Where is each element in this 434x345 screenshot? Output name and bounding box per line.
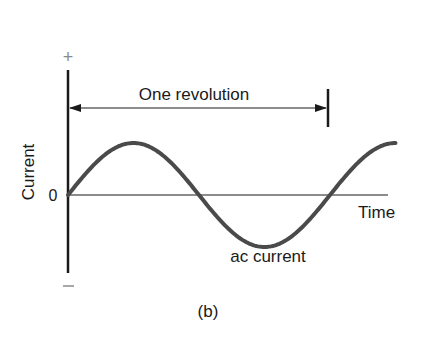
y-axis-label: Current bbox=[19, 143, 38, 200]
panel-label: (b) bbox=[198, 302, 219, 321]
zero-label: 0 bbox=[49, 187, 58, 204]
curve-label: ac current bbox=[230, 247, 306, 266]
positive-sign: + bbox=[63, 47, 74, 67]
period-annotation: One revolution bbox=[139, 85, 250, 104]
ac-current-diagram: + 0 Current Time One revolution ac curre… bbox=[0, 0, 434, 345]
x-axis-label: Time bbox=[358, 203, 395, 222]
